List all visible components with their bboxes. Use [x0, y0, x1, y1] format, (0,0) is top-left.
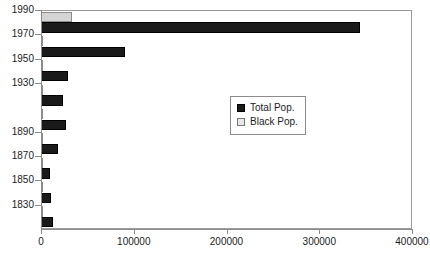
x-tick-label-200000: 200000	[210, 237, 243, 247]
y-tick-mark-1970	[35, 34, 41, 35]
legend-item-black-pop: Black Pop.	[237, 115, 298, 129]
bars-layer	[41, 10, 412, 229]
x-tick-mark-200000	[227, 229, 228, 234]
y-tick-mark-1950	[35, 59, 41, 60]
bar-total-pop-1870	[41, 168, 50, 178]
x-tick-mark-0	[41, 229, 42, 234]
legend-swatch-total-pop-icon	[237, 104, 245, 112]
y-tick-label-1850: 1850	[12, 175, 34, 185]
y-tick-label-1890: 1890	[12, 127, 34, 137]
x-tick-label-300000: 300000	[303, 237, 336, 247]
chart-legend: Total Pop. Black Pop.	[230, 96, 306, 135]
y-tick-mark-1890	[35, 132, 41, 133]
y-tick-label-1990: 1990	[12, 5, 34, 15]
x-tick-mark-100000	[134, 229, 135, 234]
x-tick-label-400000: 400000	[395, 237, 428, 247]
x-tick-label-0: 0	[38, 237, 44, 247]
y-tick-label-1830: 1830	[12, 200, 34, 210]
y-axis-line	[41, 10, 42, 229]
legend-swatch-black-pop-icon	[237, 118, 245, 126]
y-tick-mark-1930	[35, 83, 41, 84]
bar-total-pop-1970	[41, 47, 125, 57]
legend-label-total-pop: Total Pop.	[250, 103, 294, 113]
legend-item-total-pop: Total Pop.	[237, 101, 298, 115]
x-tick-mark-400000	[412, 229, 413, 234]
x-tick-label-100000: 100000	[117, 237, 150, 247]
bar-black-pop-1990	[41, 12, 72, 22]
population-bar-chart: 18301850187018901930195019701990 0100000…	[0, 0, 430, 256]
y-tick-mark-1990	[35, 10, 41, 11]
bar-total-pop-1950	[41, 71, 68, 81]
bar-total-pop-1910	[41, 120, 66, 130]
y-tick-mark-1870	[35, 156, 41, 157]
y-tick-label-1930: 1930	[12, 78, 34, 88]
y-tick-label-1970: 1970	[12, 29, 34, 39]
bar-total-pop-1890	[41, 144, 58, 154]
legend-label-black-pop: Black Pop.	[250, 117, 298, 127]
bar-total-pop-1830	[41, 217, 53, 227]
y-tick-label-1950: 1950	[12, 54, 34, 64]
y-tick-mark-1850	[35, 180, 41, 181]
bar-total-pop-1850	[41, 193, 51, 203]
bar-total-pop-1990	[41, 22, 360, 32]
x-tick-mark-300000	[319, 229, 320, 234]
y-tick-mark-1830	[35, 205, 41, 206]
y-tick-label-1870: 1870	[12, 151, 34, 161]
bar-total-pop-1930	[41, 95, 63, 105]
